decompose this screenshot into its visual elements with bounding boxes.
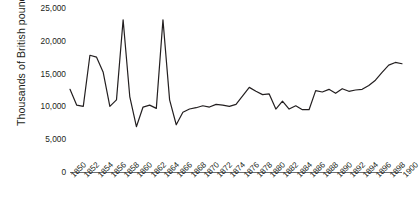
y-tick-label: 5,000 (22, 134, 66, 144)
y-tick-label: 20,000 (22, 36, 66, 46)
y-tick-label: 10,000 (22, 101, 66, 111)
x-axis-tick-labels: 1850185218541856185818601862186418661868… (70, 173, 402, 215)
y-tick-label: 0 (22, 167, 66, 177)
y-axis-tick-labels: 25,00020,00015,00010,0005,0000 (22, 0, 66, 215)
data-line-svg (70, 8, 402, 173)
data-series-line (70, 20, 402, 127)
y-tick-label: 25,000 (22, 3, 66, 13)
plot-area (70, 8, 402, 173)
y-tick-label: 15,000 (22, 69, 66, 79)
